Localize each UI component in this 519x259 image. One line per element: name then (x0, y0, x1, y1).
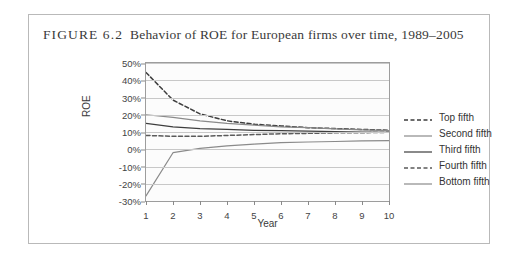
x-tick-mark (146, 201, 147, 205)
gridline (146, 98, 389, 99)
legend-item[interactable]: Top fifth (404, 109, 516, 125)
x-tick-mark (335, 201, 336, 205)
x-axis-tick-labels: 12345678910 (145, 205, 390, 219)
gridline (146, 184, 389, 185)
x-axis-title: Year (145, 218, 390, 229)
chart-legend: Top fifthSecond fifthThird fifthFourth f… (404, 109, 516, 189)
gridline (146, 63, 389, 64)
legend-label: Third fifth (439, 144, 481, 155)
y-tick-label: 0% (127, 144, 141, 155)
plot-box (145, 62, 390, 202)
y-axis-tick-labels: 50%40%30%20%10%0%-10%-20%-30% (99, 62, 141, 202)
y-tick-label: 40% (122, 75, 141, 86)
y-axis-title: ROE (81, 95, 92, 117)
x-tick-mark (200, 201, 201, 205)
legend-label: Top fifth (439, 112, 474, 123)
legend-label: Second fifth (439, 128, 492, 139)
y-tick-label: 20% (122, 109, 141, 120)
y-tick-label: 30% (122, 92, 141, 103)
x-tick-mark (389, 201, 390, 205)
y-tick-label: -30% (119, 196, 141, 207)
gridline (146, 149, 389, 150)
legend-item[interactable]: Third fifth (404, 141, 516, 157)
x-tick-mark (173, 201, 174, 205)
x-tick-mark (362, 201, 363, 205)
series-line (146, 115, 389, 131)
gridline (146, 80, 389, 81)
x-tick-mark (227, 201, 228, 205)
legend-label: Bottom fifth (439, 176, 490, 187)
figure-label: FIGURE 6.2 (43, 27, 123, 42)
legend-item[interactable]: Fourth fifth (404, 157, 516, 173)
chart-area: ROE 50%40%30%20%10%0%-10%-20%-30% 123456… (59, 57, 471, 227)
figure-caption-text: Behavior of ROE for European firms over … (130, 27, 464, 42)
gridline (146, 132, 389, 133)
y-tick-label: 50% (122, 58, 141, 69)
y-tick-label: 10% (122, 127, 141, 138)
x-tick-mark (281, 201, 282, 205)
x-tick-mark (254, 201, 255, 205)
legend-item[interactable]: Bottom fifth (404, 173, 516, 189)
x-tick-mark (308, 201, 309, 205)
gridline (146, 115, 389, 116)
figure-caption: FIGURE 6.2Behavior of ROE for European f… (43, 27, 464, 43)
figure-frame: FIGURE 6.2Behavior of ROE for European f… (28, 14, 490, 244)
legend-item[interactable]: Second fifth (404, 125, 516, 141)
legend-label: Fourth fifth (439, 160, 487, 171)
y-tick-label: -20% (119, 178, 141, 189)
y-tick-label: -10% (119, 161, 141, 172)
plot-inner (146, 63, 389, 201)
gridline (146, 167, 389, 168)
